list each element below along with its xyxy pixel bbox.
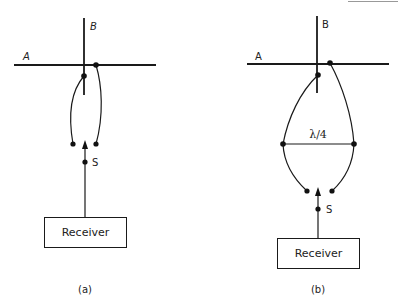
right-feed-wire	[96, 65, 101, 144]
receiver-label: Receiver	[295, 247, 343, 260]
source-dot	[82, 159, 87, 164]
label-s: S	[92, 157, 98, 168]
caption-a: (a)	[78, 284, 92, 295]
junction-dot	[327, 60, 333, 66]
label-a: A	[22, 51, 30, 62]
terminal-dot	[304, 188, 309, 193]
label-b: B	[90, 21, 97, 32]
quarter-wave-label: λ/4	[309, 128, 327, 141]
receiver-label: Receiver	[62, 226, 110, 239]
caption-b: (b)	[311, 284, 325, 295]
label-s: S	[326, 204, 332, 215]
junction-dot	[81, 73, 87, 79]
right-upper-wire	[330, 63, 354, 144]
label-b: B	[322, 19, 329, 30]
terminal-dot	[329, 188, 334, 193]
junction-dot	[280, 141, 286, 147]
junction-dot	[351, 141, 357, 147]
terminal-dot	[93, 141, 98, 146]
antenna-diagram: A B S Receiver (a) A B λ/4	[0, 0, 398, 307]
terminal-dot	[70, 141, 75, 146]
right-lower-wire	[332, 144, 354, 191]
junction-dot	[93, 62, 99, 68]
left-feed-wire	[71, 76, 84, 144]
panel-a: A B S Receiver (a)	[14, 18, 156, 295]
left-lower-wire	[283, 144, 307, 191]
source-dot	[315, 206, 320, 211]
panel-b: A B λ/4 S Receiver (b)	[247, 16, 389, 295]
arrow-up-icon	[82, 140, 88, 149]
label-a: A	[255, 51, 262, 62]
arrow-up-icon	[315, 187, 321, 196]
junction-dot	[315, 72, 321, 78]
